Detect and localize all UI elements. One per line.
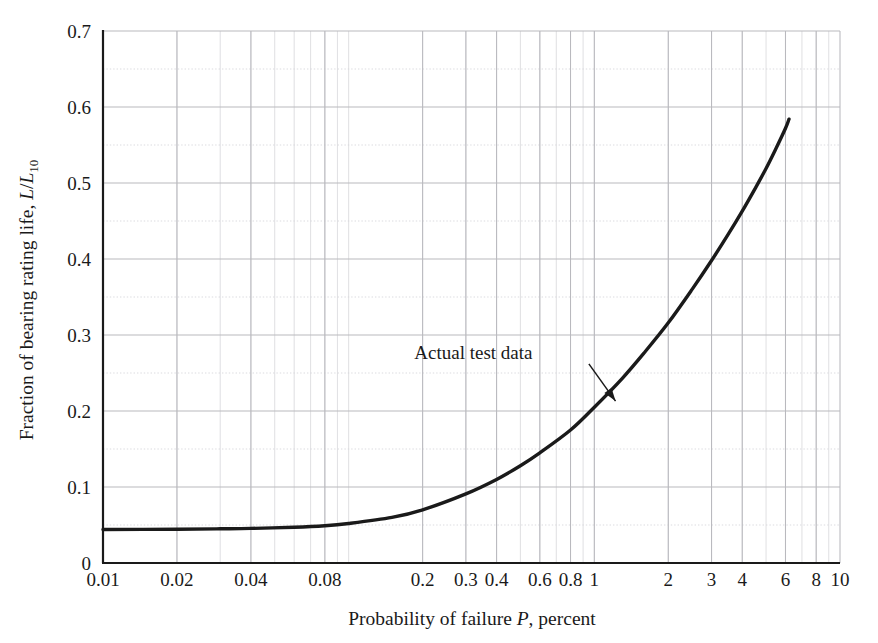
x-tick-label: 1 — [590, 569, 600, 590]
chart-canvas: 0.010.020.040.080.20.30.40.60.812346810 … — [0, 0, 878, 643]
x-tick-label: 0.3 — [454, 569, 478, 590]
y-tick-label: 0 — [82, 553, 92, 574]
x-tick-label: 2 — [664, 569, 674, 590]
x-axis-title: Probability of failure P, percent — [348, 608, 596, 629]
y-tick-label: 0.3 — [67, 325, 91, 346]
x-tick-label: 3 — [707, 569, 717, 590]
y-tick-label: 0.6 — [67, 97, 91, 118]
x-tick-label: 8 — [811, 569, 821, 590]
chart-background — [0, 0, 878, 643]
y-tick-label: 0.2 — [67, 401, 91, 422]
x-tick-label: 10 — [831, 569, 850, 590]
y-tick-label: 0.4 — [67, 249, 91, 270]
annotation-label: Actual test data — [414, 342, 533, 363]
y-tick-label: 0.5 — [67, 173, 91, 194]
x-tick-label: 0.2 — [411, 569, 435, 590]
x-tick-label: 0.8 — [559, 569, 583, 590]
y-tick-label: 0.1 — [67, 477, 91, 498]
x-tick-label: 0.04 — [234, 569, 268, 590]
x-tick-label: 4 — [737, 569, 747, 590]
x-tick-label: 0.01 — [86, 569, 119, 590]
x-tick-label: 0.4 — [485, 569, 509, 590]
chart-figure: 0.010.020.040.080.20.30.40.60.812346810 … — [0, 0, 878, 643]
x-tick-label: 0.02 — [160, 569, 193, 590]
x-tick-label: 0.08 — [308, 569, 341, 590]
x-tick-label: 6 — [781, 569, 791, 590]
x-tick-label: 0.6 — [528, 569, 552, 590]
y-tick-label: 0.7 — [67, 21, 91, 42]
